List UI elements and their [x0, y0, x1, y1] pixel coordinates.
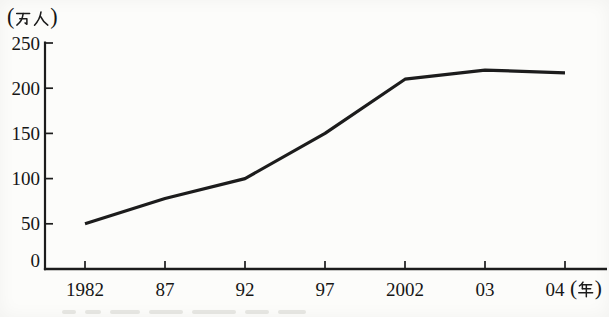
kanji-nen-year-icon — [579, 282, 593, 297]
y-tick-label: 250 — [12, 33, 41, 54]
cropped-caption-remnant — [62, 309, 306, 315]
caption-smudge — [62, 310, 76, 314]
scanned-page: 050100150200250198287929720020304()() — [0, 0, 609, 317]
caption-smudge — [278, 310, 306, 314]
x-tick-label: 03 — [476, 279, 495, 300]
caption-smudge — [85, 310, 101, 314]
unit-paren-glyph: ( — [570, 276, 577, 300]
y-tick-label: 50 — [21, 213, 40, 234]
x-tick-label: 97 — [316, 279, 335, 300]
y-tick-label: 200 — [12, 78, 41, 99]
y-tick-label: 150 — [12, 123, 41, 144]
caption-smudge — [149, 310, 183, 314]
unit-paren-glyph: ( — [7, 4, 14, 29]
y-tick-label: 0 — [31, 250, 41, 271]
x-tick-label: 2002 — [386, 279, 424, 300]
caption-smudge — [192, 310, 236, 314]
unit-paren-glyph: ) — [595, 276, 602, 300]
x-tick-label: 92 — [236, 279, 255, 300]
data-line — [85, 70, 565, 224]
unit-paren-glyph: ) — [50, 4, 57, 29]
y-axis-unit-label: () — [7, 4, 58, 29]
kanji-nin-person-icon — [35, 12, 48, 25]
population-line-chart: 050100150200250198287929720020304()() — [0, 0, 609, 317]
caption-smudge — [110, 310, 140, 314]
kanji-man-10k-icon — [17, 14, 30, 26]
x-tick-label: 1982 — [66, 279, 104, 300]
caption-smudge — [245, 310, 269, 314]
x-tick-label: 04 — [546, 279, 566, 300]
x-tick-label: 87 — [156, 279, 175, 300]
y-tick-label: 100 — [12, 168, 41, 189]
x-axis-unit-label: () — [570, 276, 602, 300]
